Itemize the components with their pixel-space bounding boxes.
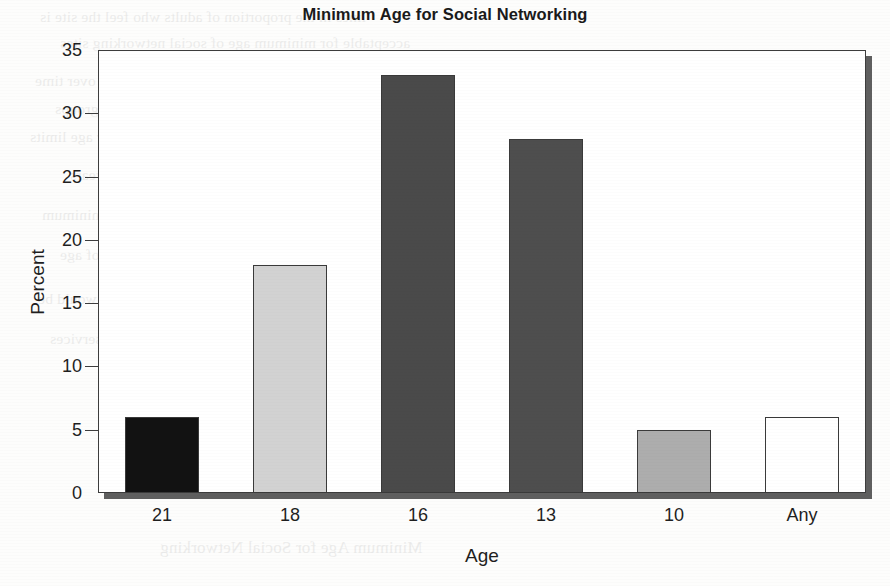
- bar-16: [381, 75, 455, 493]
- y-axis-tick-label: 30: [0, 103, 82, 124]
- bar-21: [125, 417, 199, 493]
- chart-title: Minimum Age for Social Networking: [0, 5, 890, 24]
- y-axis-tick-label: 5: [0, 419, 82, 440]
- y-axis-tick-label: 35: [0, 40, 82, 61]
- y-axis-tick-mark: [85, 303, 98, 304]
- x-axis-tick-label: 18: [226, 505, 354, 526]
- y-axis-title: Percent: [27, 182, 49, 382]
- y-axis-tick-mark: [85, 177, 98, 178]
- y-axis-tick-mark: [85, 240, 98, 241]
- x-axis-tick-label: 13: [482, 505, 610, 526]
- y-axis-tick-mark: [85, 113, 98, 114]
- y-axis-tick-mark: [85, 366, 98, 367]
- bar-13: [509, 139, 583, 493]
- y-axis-tick-label: 0: [0, 483, 82, 504]
- bar-chart: Minimum Age for Social Networking 051015…: [0, 0, 890, 586]
- bar-10: [637, 430, 711, 493]
- scanned-page: lines in the proportion of adults who fe…: [0, 0, 890, 586]
- bar-Any: [765, 417, 839, 493]
- x-axis-tick-label: 10: [610, 505, 738, 526]
- bar-18: [253, 265, 327, 493]
- x-axis-tick-label: 21: [98, 505, 226, 526]
- x-axis-tick-label: Any: [738, 505, 866, 526]
- x-axis-title: Age: [98, 545, 866, 567]
- bar-series: [98, 50, 866, 493]
- y-axis-tick-mark: [85, 430, 98, 431]
- x-axis-tick-label: 16: [354, 505, 482, 526]
